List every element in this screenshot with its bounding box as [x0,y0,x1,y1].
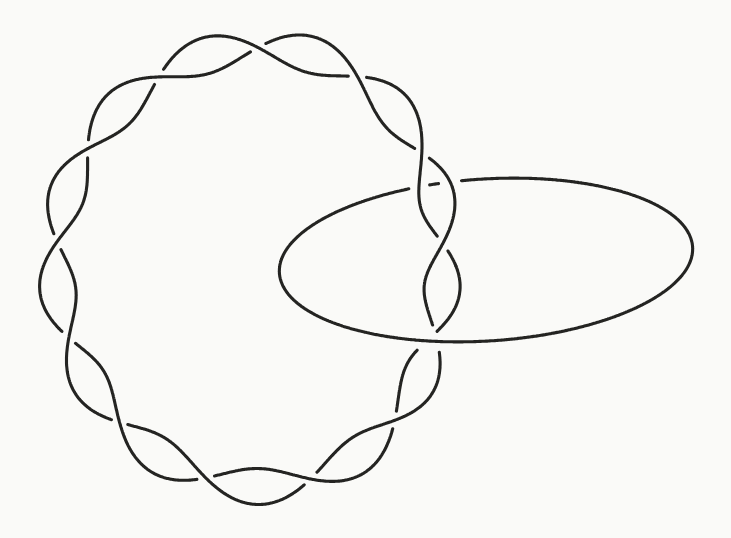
figure-page [0,0,731,538]
knot-link-svg [0,0,731,538]
twisted-band-strand-b [40,35,461,481]
linking-ring-ellipse [279,178,692,342]
twisted-band-strand-a [48,36,456,505]
